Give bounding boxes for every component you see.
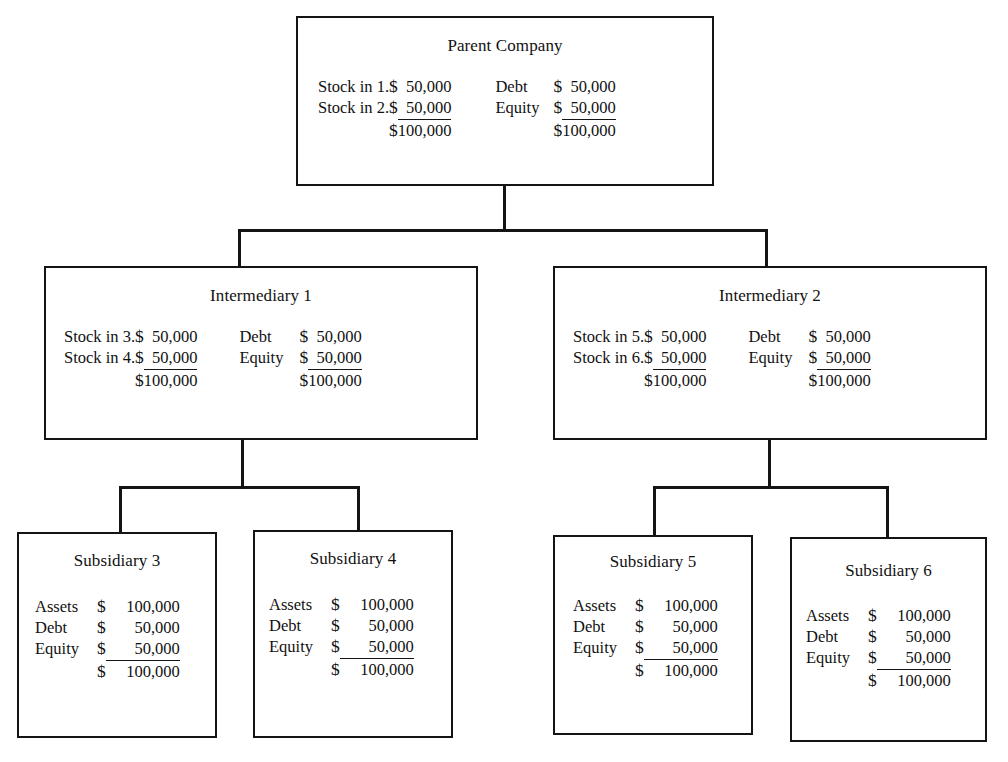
table-row: Equity $ 50,000 <box>239 347 361 370</box>
table-row: Equity $ 50,000 <box>269 636 414 659</box>
subsidiary-4-table: Assets $ 100,000 Debt $ 50,000 Equity $ … <box>269 594 414 680</box>
node-title-subsidiary-3: Subsidiary 3 <box>19 551 215 571</box>
node-intermediary-1[interactable]: Intermediary 1 Stock in 3. $ 50,000 Stoc… <box>44 266 478 440</box>
table-row-total: $ 100,000 <box>239 370 361 391</box>
table-row: Debt $ 50,000 <box>239 326 361 347</box>
table-row: Debt $ 50,000 <box>35 617 180 638</box>
connector-intermediary-1-bus <box>119 486 360 489</box>
table-row: Stock in 1. $ 50,000 <box>318 76 451 97</box>
table-row: Stock in 2. $ 50,000 <box>318 97 451 120</box>
table-row: Equity $ 50,000 <box>35 638 180 661</box>
connector-parent-bus <box>238 229 768 232</box>
subsidiary-3-table: Assets $ 100,000 Debt $ 50,000 Equity $ … <box>35 596 180 682</box>
table-row: Equity $ 50,000 <box>748 347 870 370</box>
node-subsidiary-4[interactable]: Subsidiary 4 Assets $ 100,000 Debt $ 50,… <box>253 530 453 738</box>
node-title-intermediary-1: Intermediary 1 <box>46 286 476 306</box>
column-gap <box>706 326 748 391</box>
table-row: Stock in 3. $ 50,000 <box>64 326 197 347</box>
table-row-total: $ 100,000 <box>495 120 615 141</box>
table-row: Equity $ 50,000 <box>573 637 718 660</box>
intermediary-2-assets-table: Stock in 5. $ 50,000 Stock in 6. $ 50,00… <box>573 326 706 391</box>
parent-assets-table: Stock in 1. $ 50,000 Stock in 2. $ 50,00… <box>318 76 451 141</box>
table-row-total: $ 100,000 <box>748 370 870 391</box>
table-row: Debt $ 50,000 <box>573 616 718 637</box>
table-row: Assets $ 100,000 <box>573 595 718 616</box>
table-row-total: $ 100,000 <box>806 670 951 691</box>
table-row-total: $ 100,000 <box>318 120 451 141</box>
table-row: Equity $ 50,000 <box>495 97 615 120</box>
table-row: Assets $ 100,000 <box>806 605 951 626</box>
connector-to-subsidiary-4 <box>357 486 360 532</box>
intermediary-2-financials: Stock in 5. $ 50,000 Stock in 6. $ 50,00… <box>573 326 871 391</box>
node-title-subsidiary-5: Subsidiary 5 <box>555 552 751 572</box>
table-row: Debt $ 50,000 <box>748 326 870 347</box>
table-row: Debt $ 50,000 <box>495 76 615 97</box>
parent-financials: Stock in 1. $ 50,000 Stock in 2. $ 50,00… <box>318 76 616 141</box>
node-subsidiary-6[interactable]: Subsidiary 6 Assets $ 100,000 Debt $ 50,… <box>790 537 987 742</box>
node-title-subsidiary-6: Subsidiary 6 <box>792 561 985 581</box>
node-parent-company[interactable]: Parent Company Stock in 1. $ 50,000 Stoc… <box>296 16 714 186</box>
table-row-total: $ 100,000 <box>35 661 180 682</box>
parent-liabilities-table: Debt $ 50,000 Equity $ 50,000 $ 100,000 <box>495 76 615 141</box>
connector-to-subsidiary-5 <box>653 486 656 537</box>
column-gap <box>197 326 239 391</box>
subsidiary-5-table: Assets $ 100,000 Debt $ 50,000 Equity $ … <box>573 595 718 681</box>
intermediary-2-liabilities-table: Debt $ 50,000 Equity $ 50,000 $ 100,000 <box>748 326 870 391</box>
table-row: Assets $ 100,000 <box>269 594 414 615</box>
connector-to-intermediary-1 <box>238 229 241 268</box>
table-row: Stock in 4. $ 50,000 <box>64 347 197 370</box>
table-row-total: $ 100,000 <box>64 370 197 391</box>
connector-to-subsidiary-6 <box>886 486 889 539</box>
connector-intermediary-1-stem <box>241 440 244 488</box>
connector-intermediary-2-stem <box>768 440 771 488</box>
table-row: Stock in 5. $ 50,000 <box>573 326 706 347</box>
table-row-total: $ 100,000 <box>573 660 718 681</box>
column-gap <box>451 76 495 141</box>
table-row: Equity $ 50,000 <box>806 647 951 670</box>
table-row: Debt $ 50,000 <box>269 615 414 636</box>
org-chart-diagram: Parent Company Stock in 1. $ 50,000 Stoc… <box>0 0 1008 762</box>
connector-parent-stem <box>503 186 506 231</box>
node-subsidiary-3[interactable]: Subsidiary 3 Assets $ 100,000 Debt $ 50,… <box>17 532 217 738</box>
intermediary-1-financials: Stock in 3. $ 50,000 Stock in 4. $ 50,00… <box>64 326 362 391</box>
connector-intermediary-2-bus <box>653 486 889 489</box>
connector-to-subsidiary-3 <box>119 486 122 534</box>
intermediary-1-assets-table: Stock in 3. $ 50,000 Stock in 4. $ 50,00… <box>64 326 197 391</box>
table-row: Debt $ 50,000 <box>806 626 951 647</box>
node-subsidiary-5[interactable]: Subsidiary 5 Assets $ 100,000 Debt $ 50,… <box>553 535 753 735</box>
node-intermediary-2[interactable]: Intermediary 2 Stock in 5. $ 50,000 Stoc… <box>553 266 987 440</box>
connector-to-intermediary-2 <box>765 229 768 268</box>
node-title-intermediary-2: Intermediary 2 <box>555 286 985 306</box>
table-row-total: $ 100,000 <box>573 370 706 391</box>
table-row-total: $ 100,000 <box>269 659 414 680</box>
node-title-subsidiary-4: Subsidiary 4 <box>255 549 451 569</box>
intermediary-1-liabilities-table: Debt $ 50,000 Equity $ 50,000 $ 100,000 <box>239 326 361 391</box>
node-title-parent: Parent Company <box>298 36 712 56</box>
table-row: Stock in 6. $ 50,000 <box>573 347 706 370</box>
table-row: Assets $ 100,000 <box>35 596 180 617</box>
subsidiary-6-table: Assets $ 100,000 Debt $ 50,000 Equity $ … <box>806 605 951 691</box>
